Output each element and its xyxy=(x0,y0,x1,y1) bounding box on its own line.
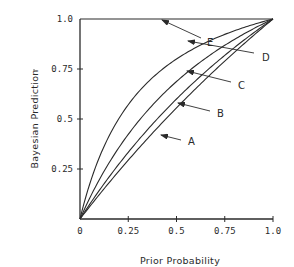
curve-a xyxy=(80,19,273,219)
arrow-a xyxy=(161,135,181,140)
x-tick-label: 0.5 xyxy=(168,226,184,236)
y-tick-label: 0.25 xyxy=(51,164,73,174)
curve-b xyxy=(80,19,273,219)
y-ticks: 0.250.50.751.0 xyxy=(51,14,83,174)
curve-c xyxy=(80,19,273,219)
curve-d xyxy=(80,19,273,219)
arrow-b xyxy=(178,103,210,111)
curve-annotations: ABCDE xyxy=(161,20,270,147)
x-axis-title: Prior Probability xyxy=(140,255,220,266)
arrow-c xyxy=(187,71,231,82)
arrow-e xyxy=(162,20,201,38)
y-axis-title: Bayesian Prediction xyxy=(29,69,40,168)
curve-label-d: D xyxy=(262,52,270,63)
x-tick-label: 0.25 xyxy=(117,226,139,236)
x-tick-label: 0 xyxy=(77,226,82,236)
y-tick-label: 0.75 xyxy=(51,64,73,74)
curves xyxy=(80,19,273,219)
x-tick-label: 0.75 xyxy=(214,226,236,236)
curve-label-e: E xyxy=(207,37,213,48)
curve-label-c: C xyxy=(238,80,245,91)
bayesian-prediction-chart: 00.250.50.751.0 0.250.50.751.0 ABCDE Pri… xyxy=(0,0,294,267)
curve-label-b: B xyxy=(217,108,224,119)
curve-label-a: A xyxy=(188,136,195,147)
y-tick-label: 1.0 xyxy=(57,14,73,24)
x-tick-label: 1.0 xyxy=(265,226,281,236)
y-tick-label: 0.5 xyxy=(57,114,73,124)
